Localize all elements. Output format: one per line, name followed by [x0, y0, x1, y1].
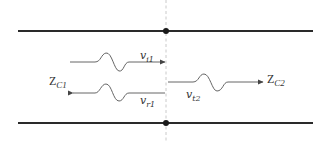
reflected-wave-arrow: [73, 84, 165, 101]
impedance-label-zc2: ZC2: [267, 72, 285, 88]
transmission-line-diagram: vi1 vr1 vt2 ZC1 ZC2: [0, 0, 331, 143]
bottom-junction-dot: [163, 120, 169, 126]
top-junction-dot: [163, 28, 169, 34]
reflected-wave-label: vr1: [140, 94, 155, 109]
transmitted-wave-label: vt2: [186, 88, 201, 103]
incident-wave-label: vi1: [140, 49, 154, 64]
impedance-label-zc1: ZC1: [49, 74, 67, 90]
transmitted-wave-arrow: [168, 74, 263, 91]
